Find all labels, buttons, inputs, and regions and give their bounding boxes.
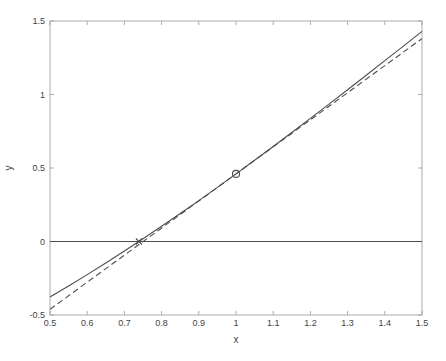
x-tick-label: 0.5 <box>44 318 57 328</box>
y-tick-label: 0 <box>40 237 45 247</box>
x-tick-label: 0.8 <box>155 318 168 328</box>
tangent-line-at-x-1 <box>50 39 422 310</box>
x-tick-label: 1.4 <box>379 318 392 328</box>
matlab-figure: 0.50.60.70.80.911.11.21.31.41.5-0.500.51… <box>0 0 446 361</box>
y-tick-label: 1 <box>40 90 45 100</box>
y-tick-label: -0.5 <box>29 310 45 320</box>
curve-f-x-minus-cos-x <box>50 31 422 297</box>
y-axis-label: y <box>4 166 14 171</box>
plot-canvas: 0.50.60.70.80.911.11.21.31.41.5-0.500.51… <box>0 0 446 361</box>
x-tick-label: 0.6 <box>81 318 94 328</box>
x-axis-label: x <box>234 335 239 345</box>
axes-box <box>50 21 422 315</box>
x-tick-label: 1.2 <box>304 318 317 328</box>
x-tick-label: 0.7 <box>118 318 131 328</box>
x-tick-label: 1.5 <box>416 318 429 328</box>
x-tick-label: 1 <box>233 318 238 328</box>
x-tick-label: 1.3 <box>341 318 354 328</box>
y-tick-label: 0.5 <box>32 163 45 173</box>
x-tick-label: 1.1 <box>267 318 280 328</box>
y-tick-label: 1.5 <box>32 16 45 26</box>
x-tick-label: 0.9 <box>193 318 206 328</box>
